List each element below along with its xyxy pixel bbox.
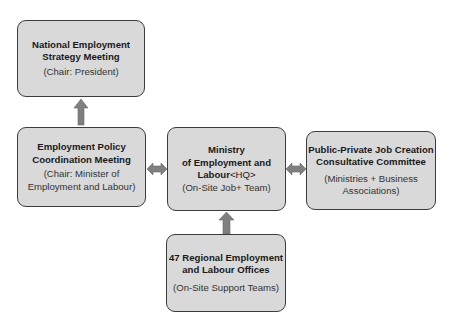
node-title: Employment Policy Coordination Meeting (32, 141, 131, 166)
arrow-up-icon (218, 211, 235, 235)
subtitle-line: (On-Site Support Teams) (173, 282, 279, 295)
title-line: National Employment (32, 39, 130, 52)
node-public-private-job-creation-committee: Public-Private Job Creation Consultative… (306, 131, 436, 210)
title-line: Ministry (182, 144, 271, 157)
title-line: Strategy Meeting (32, 51, 130, 64)
subtitle-line: (Chair: President) (43, 66, 118, 79)
subtitle-line: Associations) (324, 185, 418, 198)
title-line-with-suffix: Labour<HQ> (182, 169, 271, 182)
node-subtitle: (Chair: Minister of Employment and Labou… (28, 168, 136, 193)
node-title: Ministry of Employment and Labour<HQ> (182, 144, 271, 182)
title-line: Labour (197, 169, 230, 180)
title-line: Employment Policy (32, 141, 131, 154)
node-title: Public-Private Job Creation Consultative… (308, 144, 433, 169)
node-title: National Employment Strategy Meeting (32, 39, 130, 64)
node-subtitle: (Chair: President) (43, 66, 118, 79)
node-ministry-of-employment-and-labour: Ministry of Employment and Labour<HQ> (O… (167, 127, 286, 211)
node-subtitle: (Ministries + Business Associations) (324, 173, 418, 198)
node-subtitle: (On-Site Support Teams) (173, 282, 279, 295)
node-regional-employment-and-labour-offices: 47 Regional Employment and Labour Office… (166, 234, 286, 312)
hq-suffix: <HQ> (230, 169, 256, 180)
title-line: Coordination Meeting (32, 154, 131, 167)
title-line: 47 Regional Employment (169, 252, 283, 265)
title-line: Consultative Committee (308, 156, 433, 169)
node-national-employment-strategy-meeting: National Employment Strategy Meeting (Ch… (17, 20, 145, 97)
double-arrow-icon (285, 162, 307, 176)
node-title: 47 Regional Employment and Labour Office… (169, 252, 283, 277)
title-line: of Employment and (182, 157, 271, 170)
subtitle-line: Employment and Labour) (28, 181, 136, 194)
node-subtitle: (On-Site Job+ Team) (182, 182, 271, 195)
subtitle-line: (Chair: Minister of (28, 168, 136, 181)
node-employment-policy-coordination-meeting: Employment Policy Coordination Meeting (… (17, 127, 146, 207)
title-line: and Labour Offices (169, 264, 283, 277)
subtitle-line: (Ministries + Business (324, 173, 418, 186)
title-line: Public-Private Job Creation (308, 144, 433, 157)
arrow-up-icon (73, 98, 89, 126)
subtitle-line: (On-Site Job+ Team) (182, 182, 271, 195)
double-arrow-icon (146, 162, 168, 176)
